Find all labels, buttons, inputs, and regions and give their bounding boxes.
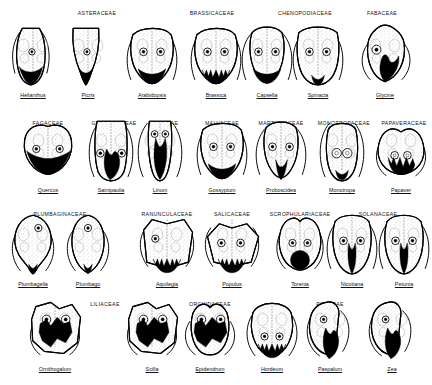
seed-diagram-paspalum xyxy=(302,296,358,362)
genus-label-brassica: Brassica xyxy=(206,92,227,98)
seed-diagram-scilla xyxy=(124,296,180,362)
seed-diagram-gossypium xyxy=(194,117,250,183)
genus-label-plumbago: Plumbago xyxy=(76,281,100,287)
genus-label-glycine: Glycine xyxy=(376,92,394,98)
genus-label-nicotiana: Nicotiana xyxy=(341,281,363,287)
genus-label-gossypium: Gossypium xyxy=(209,187,236,193)
seed-diagram-spinacia xyxy=(290,22,346,88)
seed-embryo-figure: ASTERACEAEBRASSICACEAECHENOPODIACEAEFABA… xyxy=(0,0,432,385)
genus-label-plumbagella: Plumbagella xyxy=(18,281,48,287)
genus-label-proboscidea: Proboscidea xyxy=(266,187,296,193)
genus-label-picris: Picris xyxy=(81,92,94,98)
seed-diagram-quercus xyxy=(20,117,76,183)
seed-diagram-torenia xyxy=(272,211,328,277)
family-label-chenopodiaceae: CHENOPODIACEAE xyxy=(278,10,332,16)
seed-diagram-monotropa xyxy=(314,117,370,183)
family-label-asteraceae: ASTERACEAE xyxy=(78,10,116,16)
genus-label-helianthus: Helianthus xyxy=(20,92,45,98)
genus-label-ornithogalum: Ornithogalum xyxy=(39,366,71,372)
seed-diagram-linum xyxy=(132,117,188,183)
seed-diagram-hordeum xyxy=(244,296,300,362)
seed-diagram-glycine xyxy=(357,22,413,88)
genus-label-zea: Zea xyxy=(387,366,396,372)
genus-label-arabidopsis: Arabidopsis xyxy=(138,92,166,98)
genus-label-paspalum: Paspalum xyxy=(318,366,342,372)
seed-diagram-aquilegia xyxy=(139,211,195,277)
seed-diagram-epidendrum xyxy=(182,296,238,362)
seed-diagram-plumbago xyxy=(60,211,116,277)
seed-diagram-helianthus xyxy=(5,22,61,88)
seed-diagram-saintpaulia xyxy=(83,117,139,183)
family-label-liliaceae: LILIACEAE xyxy=(90,301,119,307)
genus-label-linum: Linum xyxy=(153,187,168,193)
seed-diagram-plumbagella xyxy=(5,211,61,277)
seed-diagram-ornithogalum xyxy=(27,296,83,362)
genus-label-hordeum: Hordeum xyxy=(261,366,283,372)
seed-diagram-papaver xyxy=(373,117,429,183)
genus-label-saintpaulia: Saintpaulia xyxy=(98,187,125,193)
genus-label-populus: Populus xyxy=(222,281,241,287)
seed-diagram-zea xyxy=(364,296,420,362)
seed-diagram-proboscidea xyxy=(253,117,309,183)
seed-diagram-capsella xyxy=(239,22,295,88)
seed-diagram-arabidopsis xyxy=(124,22,180,88)
genus-label-aquilegia: Aquilegia xyxy=(156,281,178,287)
family-label-brassicaceae: BRASSICACEAE xyxy=(190,10,235,16)
seed-diagram-populus xyxy=(204,211,260,277)
genus-label-quercus: Quercus xyxy=(38,187,58,193)
genus-label-petunia: Petunia xyxy=(395,281,413,287)
genus-label-monotropa: Monotropa xyxy=(329,187,355,193)
genus-label-capsella: Capsella xyxy=(257,92,278,98)
genus-label-spinacia: Spinacia xyxy=(308,92,329,98)
seed-diagram-brassica xyxy=(188,22,244,88)
genus-label-torenia: Torenia xyxy=(291,281,309,287)
family-label-fabaceae: FABACEAE xyxy=(367,10,397,16)
seed-diagram-petunia xyxy=(376,211,432,277)
genus-label-papaver: Papaver xyxy=(391,187,411,193)
genus-label-scilla: Scilla xyxy=(146,366,159,372)
seed-diagram-nicotiana xyxy=(324,211,380,277)
genus-label-epidendrum: Epidendrum xyxy=(195,366,224,372)
seed-diagram-picris xyxy=(60,22,116,88)
